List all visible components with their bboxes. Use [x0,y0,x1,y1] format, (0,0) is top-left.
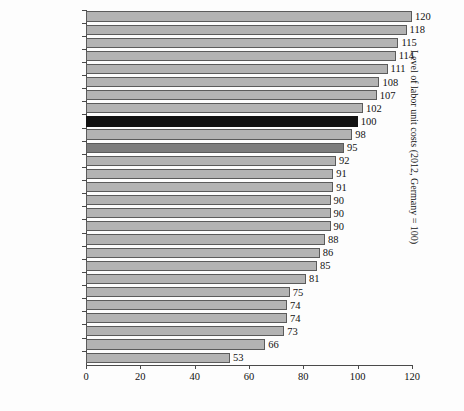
bar-value-label: 73 [284,325,298,338]
y-axis-tick [82,10,86,11]
bar-row: Hungary74 [86,299,412,312]
bar [86,169,333,179]
bar [86,195,331,205]
bar [86,339,265,349]
bar [86,156,336,166]
bar [86,129,352,139]
bar-value-label: 108 [379,76,398,89]
bar [86,103,363,113]
bar-value-label: 95 [344,141,358,154]
bar-row: Belgium114 [86,49,412,62]
bar [86,11,412,21]
y-axis-tick [82,311,86,312]
bar-row: Canada91 [86,167,412,180]
y-axis-tick [82,193,86,194]
y-axis-tick [82,206,86,207]
bar-value-label: 98 [352,128,366,141]
bar-value-label: 53 [230,351,244,364]
x-axis-tick-label: 100 [350,371,366,382]
bar [86,234,325,244]
bar [86,182,333,192]
bar [86,64,388,74]
bar-value-label: 74 [287,312,301,325]
y-axis-tick [82,23,86,24]
y-axis-tick [82,128,86,129]
bar-row: UK120 [86,10,412,23]
bar-row: Austria92 [86,154,412,167]
bar-row: Greece75 [86,286,412,299]
bar-value-label: 92 [336,154,350,167]
bar-row: Netherlands91 [86,181,412,194]
y-axis-tick [82,114,86,115]
bar-value-label: 118 [407,23,425,36]
bar [86,77,379,87]
x-axis-tick-label: 40 [189,371,200,382]
y-axis-tick [82,180,86,181]
bar-value-label: 90 [331,207,345,220]
bar-value-label: 107 [377,89,396,102]
x-axis-tick-label: 120 [404,371,420,382]
bar [86,90,377,100]
y-axis-tick [82,141,86,142]
bar-value-label: 91 [333,167,347,180]
plot-area: UK120Italy118France115Belgium114Denmark1… [86,10,412,365]
bar-value-label: 115 [398,36,416,49]
bar-row: Finland108 [86,76,412,89]
bar [86,300,287,310]
y-axis-tick [82,62,86,63]
bar-row: Cyprus98 [86,128,412,141]
bar-row: Norway107 [86,89,412,102]
bar-value-label: 90 [331,220,345,233]
labor-unit-costs-bar-chart: UK120Italy118France115Belgium114Denmark1… [0,0,464,411]
right-axis-title: Level of labor unit costs (2012, Germany… [409,50,420,310]
bar [86,208,331,218]
y-axis-tick [82,154,86,155]
y-axis-tick [82,272,86,273]
y-axis-tick [82,246,86,247]
bar [86,326,284,336]
x-axis-tick-label: 20 [135,371,146,382]
bar-row: Sweden90 [86,194,412,207]
bar-row: Estonia90 [86,220,412,233]
y-axis-tick [82,298,86,299]
bar-value-label: 90 [331,194,345,207]
x-axis-tick [195,365,196,369]
x-axis-tick [303,365,304,369]
y-axis-tick [82,219,86,220]
bar [86,116,358,126]
x-axis-tick [358,365,359,369]
y-axis-tick [82,88,86,89]
bar [86,287,290,297]
bar-value-label: 81 [306,272,320,285]
bar [86,261,317,271]
y-axis-tick [82,49,86,50]
bar-value-label: 111 [388,62,406,75]
y-axis-tick [82,36,86,37]
bar-row: Poland73 [86,325,412,338]
x-axis-tick [86,365,87,369]
y-axis-tick [82,351,86,352]
y-axis-tick [82,338,86,339]
x-axis-tick-label: 0 [83,371,88,382]
y-axis-tick [82,259,86,260]
x-axis-tick-label: 80 [298,371,309,382]
bar [86,313,287,323]
bar [86,143,344,153]
bar-row: Portugal86 [86,246,412,259]
bar [86,353,230,363]
bar-value-label: 75 [290,286,304,299]
bar [86,248,320,258]
bar [86,274,306,284]
bar-row: Lithuania53 [86,351,412,364]
bar-value-label: 85 [317,259,331,272]
y-axis-tick [82,233,86,234]
bar-value-label: 74 [287,299,301,312]
bar-value-label: 66 [265,338,279,351]
bar-row: France115 [86,36,412,49]
bar-row: Denmark111 [86,62,412,75]
bar-row: Average95 [86,141,412,154]
bar-value-label: 86 [320,246,334,259]
bar [86,38,398,48]
bar-value-label: 102 [363,102,382,115]
bar-row: US81 [86,272,412,285]
